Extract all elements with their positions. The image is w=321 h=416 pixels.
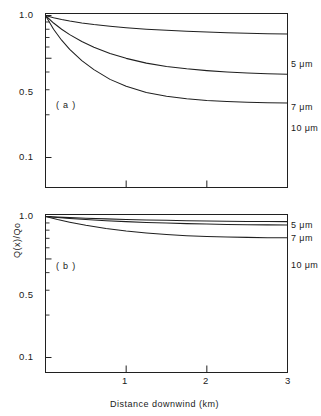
panel-b-ytick-0.1: 0.1 xyxy=(19,352,33,362)
panel-b-ticks xyxy=(46,217,207,373)
chart-canvas xyxy=(0,0,321,416)
panel-a-ytick-0.5: 0.5 xyxy=(19,87,33,97)
panel-b-tag: ( b ) xyxy=(56,262,76,271)
panel-b-label-10um: 10 μm xyxy=(291,261,318,270)
y-axis-title: Q(x)/Qo xyxy=(13,222,22,258)
panel-b-series-lines xyxy=(46,217,288,238)
series-line-7m xyxy=(46,16,288,75)
series-line-10m xyxy=(46,16,288,104)
panel-a-label-7um: 7 μm xyxy=(291,103,313,112)
panel-a-ytick-1.0: 1.0 xyxy=(19,10,33,20)
panel-b-xtick-1: 1 xyxy=(122,376,128,386)
panel-a-axes-frame xyxy=(46,14,288,188)
figure-root: Q(x)/Qo Distance downwind (km) 1.0 0.5 0… xyxy=(0,0,321,416)
panel-b-label-5um: 5 μm xyxy=(291,221,313,230)
panel-b-label-7um: 7 μm xyxy=(291,234,313,243)
panel-b-axes-frame xyxy=(46,215,288,373)
panel-a-label-5um: 5 μm xyxy=(291,60,313,69)
panel-a-series-lines xyxy=(46,16,288,104)
panel-b-ytick-0.5: 0.5 xyxy=(19,290,33,300)
panel-a-label-10um: 10 μm xyxy=(291,124,318,133)
series-line-5m xyxy=(46,16,288,35)
panel-a-tag: ( a ) xyxy=(56,101,76,110)
panel-a-ytick-0.1: 0.1 xyxy=(19,152,33,162)
x-axis-title: Distance downwind (km) xyxy=(110,400,219,409)
panel-b-xtick-2: 2 xyxy=(203,376,209,386)
panel-b-ytick-1.0: 1.0 xyxy=(19,211,33,221)
panel-b-xtick-3: 3 xyxy=(285,376,291,386)
